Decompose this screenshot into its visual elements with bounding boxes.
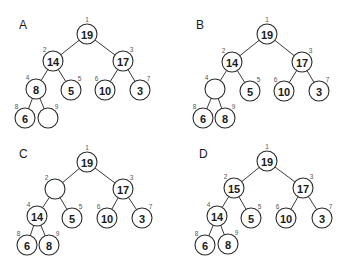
- tree-edge: [112, 198, 118, 209]
- node-value: 14: [211, 211, 224, 223]
- heap-panel-c: C191217314455106376889: [17, 144, 153, 255]
- tree-edge: [289, 70, 296, 82]
- heap-node: 191: [77, 144, 97, 172]
- node-value: 10: [101, 213, 113, 225]
- node-index-label: 8: [193, 103, 197, 110]
- heap-panel-b: B191142173455106376889: [193, 16, 330, 128]
- node-circle: [45, 179, 65, 199]
- panel-label: B: [196, 18, 204, 32]
- node-value: 3: [139, 213, 145, 225]
- tree-edge: [60, 198, 67, 210]
- heap-node: 37: [132, 203, 153, 229]
- empty-heap-node: 9: [38, 103, 59, 129]
- node-value: 15: [228, 183, 240, 195]
- node-value: 3: [319, 213, 325, 225]
- node-index-label: 9: [56, 230, 60, 237]
- heap-node: 191: [257, 16, 277, 44]
- node-value: 6: [24, 240, 30, 252]
- tree-edge: [239, 197, 246, 210]
- heap-node: 89: [39, 230, 60, 256]
- tree-edge: [128, 70, 135, 82]
- heap-node: 152: [224, 173, 244, 199]
- heap-node: 89: [218, 229, 239, 255]
- heap-node: 191: [257, 143, 277, 171]
- heap-node: 173: [293, 173, 314, 199]
- node-value: 3: [316, 86, 322, 98]
- node-index-label: 9: [55, 103, 59, 110]
- node-index-label: 2: [43, 46, 47, 53]
- tree-edge: [207, 98, 211, 109]
- node-index-label: 3: [309, 47, 313, 54]
- tree-edge: [110, 69, 117, 81]
- node-index-label: 4: [27, 201, 31, 208]
- panel-label: C: [19, 147, 28, 161]
- tree-edge: [61, 40, 79, 55]
- tree-edge: [209, 225, 213, 236]
- node-value: 14: [47, 56, 60, 68]
- node-value: 5: [247, 86, 253, 98]
- node-index-label: 9: [232, 103, 236, 110]
- node-value: 3: [137, 85, 143, 97]
- node-index-label: 1: [265, 16, 269, 23]
- node-value: 14: [226, 57, 239, 69]
- node-circle: [205, 79, 225, 99]
- node-index-label: 1: [85, 16, 89, 23]
- node-index-label: 2: [222, 47, 226, 54]
- node-index-label: 1: [85, 144, 89, 151]
- heap-panel-a: A191142173845510637689: [15, 16, 151, 128]
- node-index-label: 7: [329, 203, 333, 210]
- node-index-label: 6: [95, 75, 99, 82]
- node-value: 8: [46, 240, 52, 252]
- node-index-label: 7: [147, 75, 151, 82]
- tree-edge: [307, 71, 314, 83]
- node-value: 17: [297, 183, 309, 195]
- tree-edge: [95, 168, 115, 183]
- node-value: 6: [200, 113, 206, 125]
- heap-node: 173: [292, 47, 313, 73]
- tree-edge: [41, 225, 45, 236]
- node-value: 8: [225, 239, 231, 251]
- heap-node: 144: [27, 201, 47, 227]
- node-value: 14: [31, 211, 44, 223]
- node-value: 5: [69, 213, 75, 225]
- tree-edge: [275, 40, 294, 56]
- tree-edge: [237, 70, 244, 82]
- tree-edge: [41, 70, 48, 81]
- tree-edge: [43, 197, 50, 207]
- node-index-label: 2: [224, 173, 228, 180]
- tree-edge: [220, 70, 226, 80]
- heap-node: 68: [195, 230, 215, 256]
- node-index-label: 7: [149, 203, 153, 210]
- tree-edge: [221, 225, 225, 234]
- node-index-label: 5: [78, 75, 82, 82]
- tree-edge: [95, 40, 115, 55]
- node-value: 5: [68, 85, 74, 97]
- node-index-label: 3: [130, 46, 134, 53]
- panel-label: D: [199, 147, 208, 161]
- tree-edge: [242, 167, 260, 181]
- node-index-label: 9: [235, 229, 239, 236]
- node-value: 17: [117, 56, 129, 68]
- node-value: 19: [81, 157, 93, 169]
- node-index-label: 6: [274, 76, 278, 83]
- tree-edge: [30, 225, 33, 235]
- tree-edge: [218, 98, 221, 108]
- node-value: 19: [81, 29, 93, 41]
- node-value: 6: [22, 113, 28, 125]
- node-value: 8: [222, 113, 228, 125]
- node-index-label: 4: [205, 74, 209, 81]
- node-index-label: 8: [15, 103, 19, 110]
- node-index-label: 3: [130, 174, 134, 181]
- node-value: 10: [278, 86, 290, 98]
- tree-edge: [222, 197, 229, 208]
- heap-node: 173: [113, 174, 134, 200]
- heap-node: 68: [193, 103, 213, 129]
- heap-diagram-canvas: A191142173845510637689B19114217345510637…: [0, 0, 348, 266]
- node-value: 19: [261, 156, 273, 168]
- node-index-label: 8: [17, 230, 21, 237]
- node-index-label: 4: [207, 201, 211, 208]
- node-index-label: 5: [79, 203, 83, 210]
- tree-edge: [308, 196, 316, 209]
- heap-panel-d: D19115217314455106376889: [195, 143, 333, 255]
- heap-node: 68: [15, 103, 35, 129]
